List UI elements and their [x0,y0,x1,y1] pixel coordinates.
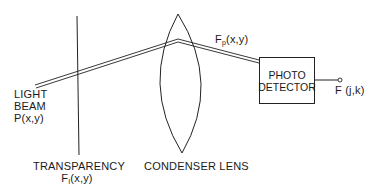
light-beam-label-line2: BEAM [14,100,47,112]
output-label: F (j,k) [335,84,365,96]
photo-detector-line1: PHOTO [268,69,305,81]
transparency-plane [77,16,79,155]
transparency-function: FI(x,y) [33,172,121,188]
transparency-label: TRANSPARENCY FI(x,y) [33,160,121,188]
beam-function-label: Fp(x,y) [215,33,248,49]
light-beam-label-line3: P(x,y) [14,112,47,124]
output-connector [315,78,342,82]
light-beam-label-line1: LIGHT [14,88,47,100]
photo-detector-box: PHOTO DETECTOR [259,57,315,104]
light-beam-label: LIGHT BEAM P(x,y) [14,88,47,124]
condenser-lens [160,14,201,153]
condenser-lens-label: CONDENSER LENS [144,160,249,172]
photo-detector-line2: DETECTOR [258,81,316,93]
transparency-title: TRANSPARENCY [33,160,121,172]
